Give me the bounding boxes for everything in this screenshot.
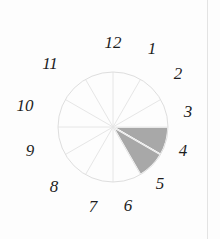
hour-label-8: 8 (50, 178, 59, 195)
right-edge-rule (207, 0, 208, 239)
hour-label-11: 11 (42, 55, 58, 72)
hour-label-12: 12 (105, 34, 122, 51)
hour-label-3: 3 (184, 103, 193, 120)
hour-label-1: 1 (148, 40, 157, 57)
spoke-hour-2 (113, 100, 161, 128)
spoke-hour-8 (65, 127, 113, 155)
spoke-hour-1 (113, 79, 141, 127)
hour-label-2: 2 (174, 65, 183, 82)
spoke-hour-7 (86, 127, 114, 175)
hour-label-9: 9 (26, 142, 35, 159)
hour-label-10: 10 (17, 97, 34, 114)
hour-label-7: 7 (89, 198, 98, 215)
spoke-hour-11 (86, 79, 114, 127)
hour-label-5: 5 (156, 175, 165, 192)
spoke-hour-10 (65, 100, 113, 128)
clock-figure: 121234567891011 (0, 0, 220, 239)
hour-label-6: 6 (124, 197, 133, 214)
hour-label-4: 4 (179, 142, 188, 159)
shaded-sector-group (113, 127, 168, 175)
